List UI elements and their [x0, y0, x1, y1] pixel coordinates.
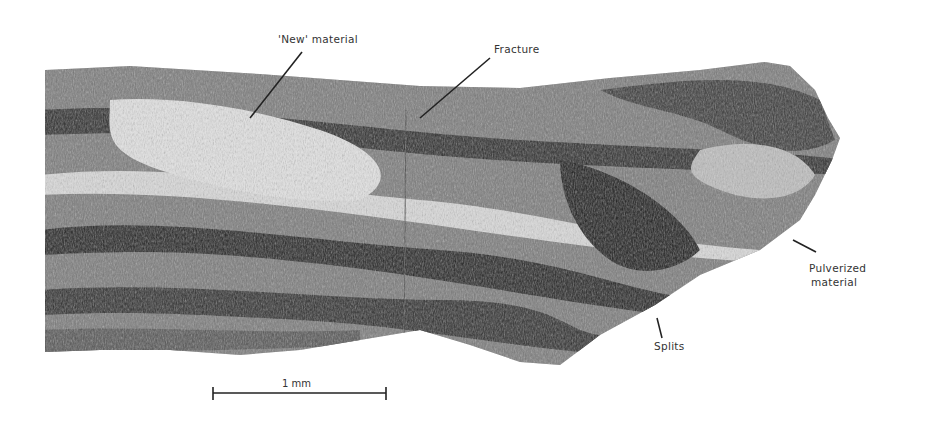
specimen-body [40, 55, 850, 375]
specimen-micrograph [0, 0, 926, 431]
scale-bar-label: 1 mm [282, 378, 311, 389]
pulverized-leader-line [793, 240, 816, 252]
splits-leader-line [657, 318, 662, 338]
micrograph-figure: 'New' material Fracture Pulverized mater… [0, 0, 926, 431]
fracture-label: Fracture [494, 43, 540, 55]
splits-label: Splits [654, 340, 685, 352]
pulverized-material-label-line1: Pulverized [809, 262, 866, 274]
new-material-label: 'New' material [278, 33, 358, 45]
pulverized-material-label-line2: material [811, 276, 857, 288]
